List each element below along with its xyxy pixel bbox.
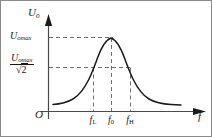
y-axis-label-subscript: o [36,12,40,20]
peak-value-label: Uomax [10,31,32,42]
half-power-denominator-value: 2 [21,63,28,75]
half-power-value-label: Uomax √2 [10,53,34,76]
x-axis-label: f [198,111,201,122]
tick-label-lower-cutoff-subscript: L [92,118,96,125]
tick-label-center-frequency: f0 [108,115,114,126]
tick-label-upper-cutoff: fH [126,115,134,126]
y-axis-label: Uo [28,7,40,20]
y-axis-label-main: U [28,6,36,18]
tick-label-upper-cutoff-subscript: H [129,118,134,125]
y-axis-arrowhead [45,14,52,26]
tick-label-center-frequency-subscript: 0 [111,118,114,125]
origin-label: O [35,109,43,120]
resonance-curve-figure: Uo Uomax Uomax √2 O f fL f0 fH [0,0,212,137]
tick-label-lower-cutoff: fL [90,115,97,126]
half-power-denominator: √2 [10,65,34,76]
response-curve [53,38,181,105]
half-power-fraction: Uomax √2 [10,53,34,76]
peak-value-subscript: omax [17,34,31,41]
